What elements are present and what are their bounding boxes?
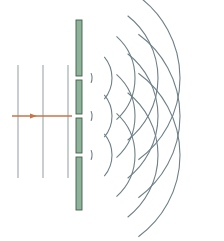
circular-wavefront bbox=[128, 93, 158, 218]
barrier-segment bbox=[76, 20, 82, 76]
barrier-segment bbox=[76, 80, 82, 114]
barrier-segment bbox=[76, 157, 82, 210]
circular-wavefront bbox=[128, 54, 158, 179]
circular-wavefront bbox=[104, 134, 112, 176]
circular-wavefront bbox=[91, 111, 92, 121]
barrier-segment bbox=[76, 118, 82, 153]
circular-wavefront bbox=[91, 150, 92, 160]
circular-wavefront bbox=[138, 34, 180, 197]
diffraction-diagram bbox=[0, 0, 224, 241]
circular-wavefront bbox=[128, 16, 158, 141]
circular-wavefront bbox=[104, 95, 112, 137]
circular-wavefront bbox=[104, 57, 112, 99]
slit-barrier bbox=[76, 20, 82, 210]
incident-plane-waves bbox=[18, 65, 68, 178]
propagation-arrow-icon bbox=[12, 113, 72, 118]
circular-wavefront bbox=[91, 73, 92, 83]
circular-wavefront bbox=[116, 36, 135, 119]
diffracted-wavefronts bbox=[91, 0, 180, 237]
arrow-head-icon bbox=[30, 113, 37, 118]
